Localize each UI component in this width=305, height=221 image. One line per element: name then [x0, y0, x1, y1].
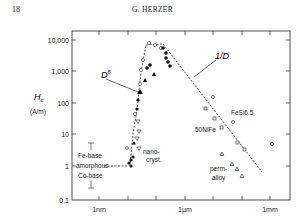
x-tick-1mm: 1mm [262, 206, 278, 213]
label-co-base: Co-base [78, 172, 103, 179]
markers-open-diamond [133, 41, 163, 116]
y-axis-unit: (A/m) [30, 108, 46, 116]
label-1-over-d: 1/D [215, 51, 230, 61]
y-tick-0.1: 0.1 [59, 197, 69, 204]
label-fe-base: Fe-base [78, 152, 102, 159]
y-tick-100: 100 [57, 100, 69, 107]
label-nano: nano- [143, 148, 160, 155]
plot-frame [72, 31, 290, 200]
x-tick-1nm: 1nm [92, 206, 106, 213]
y-tick-1: 1 [65, 163, 69, 170]
markers-open-down-triangle [135, 120, 141, 151]
y-ticks [72, 40, 290, 166]
label-d6: D6 [101, 69, 112, 80]
y-tick-1000: 1,000 [51, 68, 69, 75]
label-50nife: 50NiFe [195, 126, 216, 133]
y-tick-10000: 10,000 [48, 37, 70, 44]
label-fesi65: FeSi6.5 [231, 109, 254, 116]
chart: 10,000 1,000 100 10 1 0.1 1nm 1µm 1mm Hc… [0, 0, 305, 221]
fit-lines [104, 44, 262, 172]
y-tick-10: 10 [61, 131, 69, 138]
label-alloy: alloy [212, 174, 226, 182]
label-amorphous: amorphous [76, 162, 109, 170]
label-cryst: cryst. [146, 156, 162, 164]
x-tick-1um: 1µm [178, 206, 192, 214]
label-perm: perm- [210, 165, 227, 173]
markers-open-circle [126, 95, 274, 149]
annotation-leaders [106, 60, 216, 92]
y-axis-label: Hc [34, 92, 44, 103]
